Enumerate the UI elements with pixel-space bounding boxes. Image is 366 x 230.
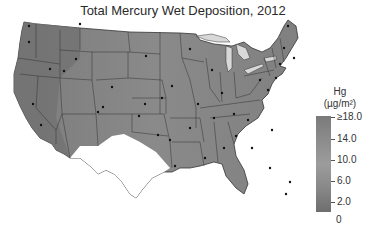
us-deposition-map (0, 18, 310, 230)
legend-tick (331, 139, 335, 140)
legend-tick (331, 202, 335, 203)
legend-tick-label: 2.0 (337, 197, 351, 207)
map-title: Total Mercury Wet Deposition, 2012 (0, 3, 366, 18)
legend-title-element: Hg (318, 86, 362, 98)
legend-zero-label: 0 (336, 214, 342, 225)
legend-title: Hg (µg/m²) (318, 86, 362, 110)
legend-tick (331, 181, 335, 182)
legend-tick-label: ≥18.0 (337, 112, 362, 122)
legend-tick-label: 6.0 (337, 176, 351, 186)
legend-tick (331, 160, 335, 161)
legend-tick-label: 10.0 (337, 155, 356, 165)
legend-title-units: (µg/m²) (318, 98, 362, 110)
legend-tick (331, 117, 335, 118)
legend-color-bar (316, 116, 331, 212)
legend-tick-label: 14.0 (337, 134, 356, 144)
